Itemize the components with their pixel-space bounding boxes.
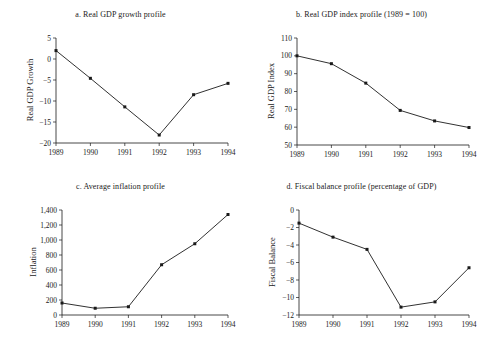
- chart-a-ytick-label: −20: [39, 139, 51, 148]
- chart-d-ytick-label: −4: [286, 241, 294, 250]
- chart-c-data-point: [227, 213, 230, 216]
- chart-a-ytick-label: 5: [47, 34, 51, 43]
- chart-d-data-point: [468, 266, 471, 269]
- figure-four-panel-charts: a. Real GDP growth profile 50−5−10−15−20…: [0, 0, 482, 344]
- chart-b-xtick-label: 1992: [393, 150, 408, 159]
- chart-b-series-line: [297, 56, 469, 128]
- chart-b-plot: 1101009080706050198919901991199219931994…: [241, 0, 482, 172]
- chart-b-ytick-label: 60: [285, 123, 293, 132]
- chart-d-ytick-label: −10: [282, 293, 294, 302]
- chart-d-xtick-label: 1992: [394, 320, 409, 329]
- chart-a-xtick-label: 1990: [83, 148, 98, 157]
- chart-a-data-point: [227, 82, 230, 85]
- chart-b-xtick-label: 1994: [462, 150, 477, 159]
- chart-a-ytick-label: −10: [39, 97, 51, 106]
- chart-d-ytick-label: −6: [286, 258, 294, 267]
- chart-c-xtick-label: 1992: [154, 320, 169, 329]
- chart-a-data-point: [123, 105, 126, 108]
- chart-c-xtick-label: 1989: [55, 320, 70, 329]
- chart-c-ytick-label: 1,400: [40, 206, 57, 215]
- chart-d-data-point: [332, 236, 335, 239]
- chart-b-ytick-label: 110: [281, 34, 292, 43]
- chart-b-data-point: [433, 119, 436, 122]
- chart-d-data-point: [366, 248, 369, 251]
- chart-d-ytick-label: −12: [282, 311, 294, 320]
- chart-d-y-axis-title: Fiscal Balance: [267, 237, 277, 287]
- chart-panel-d: d. Fiscal balance profile (percentage of…: [241, 172, 482, 344]
- chart-b-ytick-label: 70: [285, 105, 293, 114]
- chart-c-xtick-label: 1990: [88, 320, 103, 329]
- chart-panel-c: c. Average inflation profile 1,4001,2001…: [0, 172, 241, 344]
- chart-c-xtick-label: 1994: [221, 320, 236, 329]
- chart-c-ytick-label: 800: [46, 251, 58, 260]
- chart-a-xtick-label: 1992: [152, 148, 167, 157]
- chart-b-xtick-label: 1989: [290, 150, 305, 159]
- chart-d-data-point: [434, 300, 437, 303]
- chart-a-data-point: [55, 49, 58, 52]
- chart-d-data-point: [400, 306, 403, 309]
- chart-d-series-line: [299, 223, 469, 307]
- chart-b-xtick-label: 1993: [427, 150, 442, 159]
- chart-c-data-point: [94, 307, 97, 310]
- chart-c-ytick-label: 1,200: [40, 221, 57, 230]
- chart-panel-b: b. Real GDP index profile (1989 = 100) 1…: [241, 0, 482, 172]
- chart-c-series-line: [62, 215, 228, 309]
- chart-b-data-point: [296, 54, 299, 57]
- chart-a-xtick-label: 1991: [117, 148, 132, 157]
- chart-a-xtick-label: 1993: [186, 148, 201, 157]
- chart-b-data-point: [468, 126, 471, 129]
- chart-b-y-axis-title: Real GDP Index: [266, 62, 276, 119]
- chart-c-y-axis-title: Inflation: [28, 247, 38, 277]
- chart-c-xtick-label: 1991: [121, 320, 136, 329]
- chart-c-xtick-label: 1993: [187, 320, 202, 329]
- chart-c-ytick-label: 1,000: [40, 236, 57, 245]
- chart-d-ytick-label: −2: [286, 223, 294, 232]
- chart-d-xtick-label: 1993: [428, 320, 443, 329]
- chart-a-y-axis-title: Real GDP Growth: [25, 58, 35, 121]
- chart-a-series-line: [56, 51, 228, 135]
- chart-c-data-point: [127, 305, 130, 308]
- chart-a-ytick-label: −5: [43, 76, 51, 85]
- chart-a-data-point: [89, 77, 92, 80]
- chart-a-ytick-label: 0: [47, 55, 51, 64]
- chart-c-plot: 1,4001,2001,0008006004002000198919901991…: [0, 172, 241, 344]
- chart-a-data-point: [158, 134, 161, 137]
- chart-c-data-point: [61, 302, 64, 305]
- chart-c-data-point: [193, 242, 196, 245]
- chart-b-data-point: [364, 82, 367, 85]
- chart-a-ytick-label: −15: [39, 118, 51, 127]
- chart-a-data-point: [192, 93, 195, 96]
- chart-c-ytick-label: 600: [46, 266, 58, 275]
- chart-d-plot: 0−2−4−6−8−10−12198919901991199219931994F…: [241, 172, 482, 344]
- chart-c-data-point: [160, 263, 163, 266]
- chart-d-data-point: [298, 222, 301, 225]
- chart-b-ytick-label: 90: [285, 69, 293, 78]
- chart-c-ytick-label: 400: [46, 281, 58, 290]
- chart-b-data-point: [399, 109, 402, 112]
- chart-b-data-point: [330, 62, 333, 65]
- chart-d-xtick-label: 1989: [292, 320, 307, 329]
- chart-d-xtick-label: 1991: [360, 320, 375, 329]
- chart-d-xtick-label: 1990: [326, 320, 341, 329]
- chart-c-ytick-label: 200: [46, 296, 58, 305]
- chart-d-ytick-label: −8: [286, 276, 294, 285]
- chart-a-xtick-label: 1994: [221, 148, 236, 157]
- chart-b-ytick-label: 80: [285, 87, 293, 96]
- chart-b-xtick-label: 1991: [358, 150, 373, 159]
- chart-d-ytick-label: 0: [290, 206, 294, 215]
- chart-panel-a: a. Real GDP growth profile 50−5−10−15−20…: [0, 0, 241, 172]
- chart-c-ytick-label: 0: [53, 311, 57, 320]
- chart-b-ytick-label: 100: [281, 51, 293, 60]
- chart-a-plot: 50−5−10−15−20198919901991199219931994Rea…: [0, 0, 241, 172]
- chart-b-xtick-label: 1990: [324, 150, 339, 159]
- chart-b-ytick-label: 50: [285, 141, 293, 150]
- chart-d-xtick-label: 1994: [462, 320, 477, 329]
- chart-a-xtick-label: 1989: [49, 148, 64, 157]
